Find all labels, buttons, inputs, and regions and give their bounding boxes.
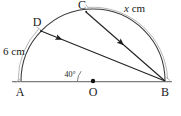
measure-label-6cm: 6 cm xyxy=(3,45,25,57)
point-label-A: A xyxy=(16,85,25,99)
point-dot-O xyxy=(91,79,95,83)
point-dot-D xyxy=(40,30,42,32)
geometry-figure: A O B C D 6 cm x cm 40° xyxy=(0,0,181,116)
semicircle-arc xyxy=(21,9,165,81)
geometry-canvas: A O B C D 6 cm x cm 40° xyxy=(0,0,181,116)
point-label-C: C xyxy=(78,0,86,12)
segment-CB xyxy=(86,12,165,81)
angle-arc-O xyxy=(78,71,82,81)
measure-label-cm-unit: cm xyxy=(129,2,146,14)
angle-label-40deg: 40° xyxy=(64,70,75,79)
measure-label-xcm: x cm xyxy=(123,2,146,14)
point-label-D: D xyxy=(33,15,42,29)
segment-DB xyxy=(41,31,165,81)
point-label-O: O xyxy=(89,85,98,99)
point-label-B: B xyxy=(161,85,169,99)
